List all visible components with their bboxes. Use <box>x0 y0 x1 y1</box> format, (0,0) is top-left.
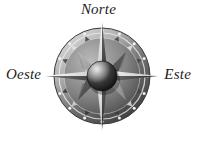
compass-rose-figure: Norte Oeste Este <box>0 0 197 148</box>
compass-label-north: Norte <box>0 2 197 17</box>
compass-label-east: Este <box>164 67 191 82</box>
compass-label-west: Oeste <box>6 67 41 82</box>
